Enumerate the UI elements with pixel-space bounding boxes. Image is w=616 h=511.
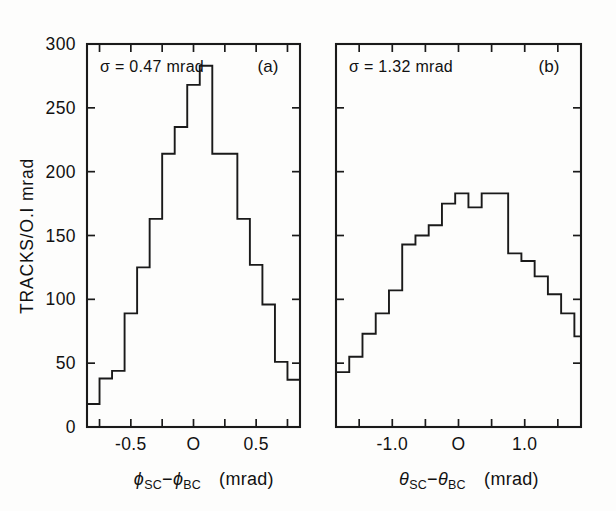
y-tick-label: 50 — [56, 353, 76, 373]
x-axis-symbol-1: ϕ — [134, 469, 144, 489]
x-axis-symbol-2: ϕ — [173, 469, 183, 489]
y-axis-label: TRACKS/O.I mrad — [17, 158, 37, 314]
histogram-trace — [87, 66, 300, 427]
y-tick-label: 200 — [46, 162, 76, 182]
y-tick-label: 300 — [46, 34, 76, 54]
y-tick-label: 150 — [46, 226, 76, 246]
panel-b: -1.0O1.0σ = 1.32 mrad(b)θSC−θBC(mrad) — [336, 44, 581, 492]
panel-tag: (b) — [539, 57, 560, 76]
panel-tag: (a) — [258, 57, 279, 76]
x-tick-label: O — [451, 434, 465, 454]
x-tick-label: O — [186, 434, 200, 454]
x-axis-symbol-1: θ — [399, 469, 409, 489]
x-axis-subscript-2: BC — [183, 478, 201, 492]
axes-frame — [336, 44, 581, 427]
x-axis-subscript-1: SC — [144, 478, 162, 492]
x-axis-subscript-2: BC — [448, 478, 466, 492]
axes-frame — [87, 44, 300, 427]
x-tick-label: -1.0 — [376, 434, 408, 454]
y-tick-label: 0 — [66, 417, 76, 437]
x-axis-title: θSC−θBC — [399, 469, 466, 492]
x-tick-label: 0.5 — [243, 434, 269, 454]
x-axis-units: (mrad) — [219, 469, 274, 489]
x-axis-units: (mrad) — [484, 469, 539, 489]
x-tick-label: 1.0 — [512, 434, 538, 454]
figure-svg: -0.5O0.5050100150200250300σ = 0.47 mrad(… — [0, 0, 616, 511]
x-axis-title: ϕSC−ϕBC — [134, 469, 201, 492]
y-tick-label: 250 — [46, 98, 76, 118]
x-tick-label: -0.5 — [115, 434, 147, 454]
sigma-annotation: σ = 0.47 mrad — [100, 58, 204, 75]
y-axis-label-text: TRACKS/O.I mrad — [17, 158, 37, 314]
sigma-annotation: σ = 1.32 mrad — [349, 58, 453, 75]
x-axis-minus: − — [162, 469, 173, 489]
figure-container: -0.5O0.5050100150200250300σ = 0.47 mrad(… — [0, 0, 616, 511]
y-tick-label: 100 — [46, 289, 76, 309]
x-axis-symbol-2: θ — [438, 469, 448, 489]
histogram-trace — [336, 193, 581, 427]
x-axis-subscript-1: SC — [409, 478, 427, 492]
panel-a: -0.5O0.5050100150200250300σ = 0.47 mrad(… — [46, 34, 300, 492]
x-axis-minus: − — [427, 469, 438, 489]
